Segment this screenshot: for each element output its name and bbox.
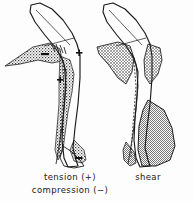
- right-femur-group: [97, 3, 175, 167]
- plus-marker-lateral-upper: [76, 50, 82, 56]
- neck-axis-line: [36, 10, 70, 45]
- distal-compression-region: [70, 140, 86, 163]
- left-femur-group: [5, 3, 86, 168]
- shear-neck-wedge-region: [97, 42, 134, 84]
- right-neck-axis-line: [109, 10, 142, 45]
- minus-marker-distal: [75, 157, 83, 159]
- compression-wedge-region: [5, 43, 62, 66]
- shear-distal-region: [138, 100, 175, 166]
- shear-lateral-upper-region: [144, 44, 162, 84]
- minus-marker-neck: [41, 53, 49, 55]
- femur-stress-diagram: [0, 0, 193, 201]
- femur-stress-figure: tension (+) compression (−) shear: [0, 0, 193, 201]
